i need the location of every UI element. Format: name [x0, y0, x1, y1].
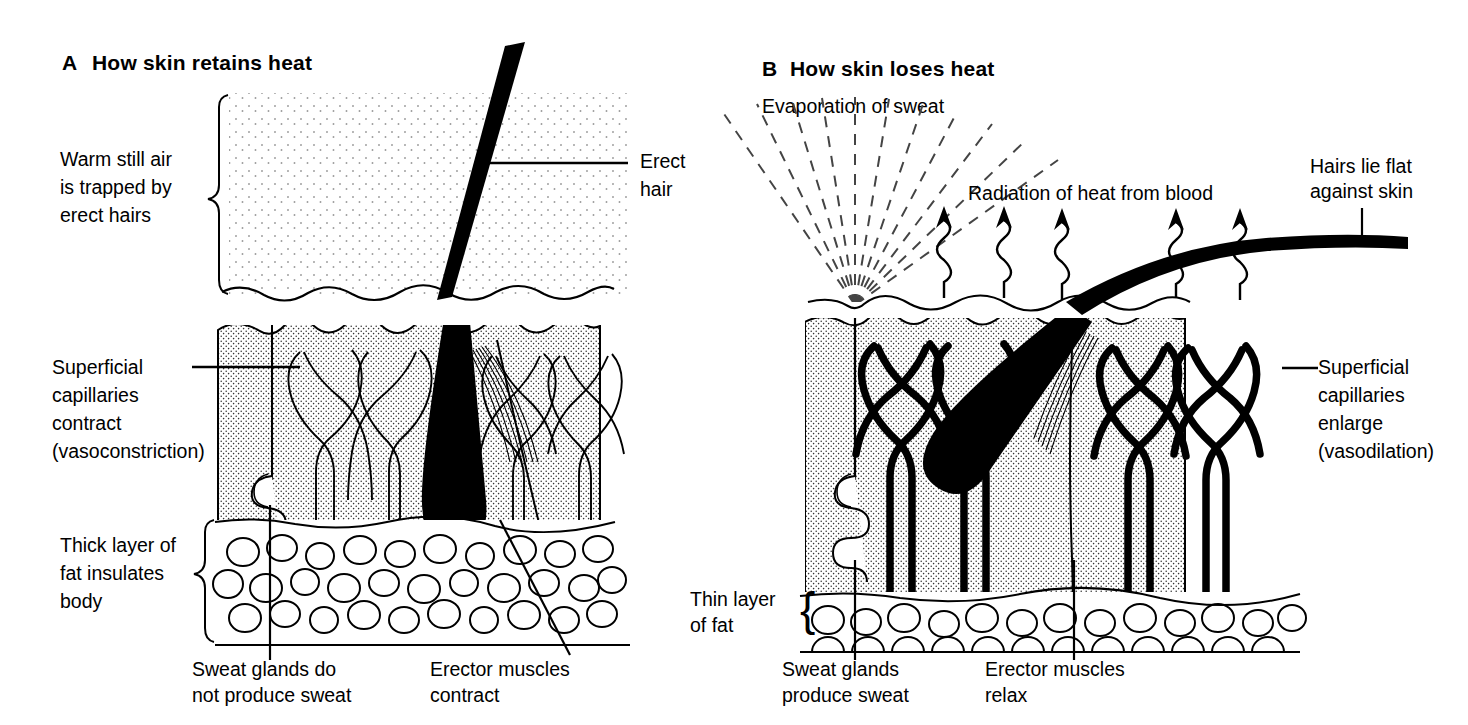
- air-label-line1: Warm still air: [60, 148, 172, 170]
- capillary-label-b-line3: enlarge: [1318, 412, 1383, 434]
- panel-a-letter: A: [62, 51, 77, 74]
- panel-a: A How skin retains heat Warm still air i…: [52, 42, 686, 706]
- warm-air-region: [229, 93, 630, 298]
- air-label-line2: is trapped by: [60, 176, 172, 198]
- panel-b: B How skin loses heat Evaporation of swe…: [690, 57, 1434, 706]
- fat-label-a-line1: Thick layer of: [60, 534, 177, 556]
- panel-b-letter: B: [762, 57, 777, 80]
- evaporation-label: Evaporation of sweat: [762, 95, 945, 117]
- capillary-label-b-line4: (vasodilation): [1318, 440, 1434, 462]
- capillary-label-b-line1: Superficial: [1318, 356, 1409, 378]
- figure-root: A How skin retains heat Warm still air i…: [0, 0, 1468, 725]
- erector-label-b-line1: Erector muscles: [985, 658, 1125, 680]
- skin-thermoregulation-diagram: A How skin retains heat Warm still air i…: [0, 0, 1468, 725]
- fat-label-a-line3: body: [60, 590, 103, 612]
- fat-label-b-line2: of fat: [690, 614, 734, 636]
- panel-a-title: How skin retains heat: [92, 51, 312, 74]
- fat-label-b-line1: Thin layer: [690, 588, 776, 610]
- sweat-label-b-line1: Sweat glands: [782, 658, 899, 680]
- hair-label-b-line2: against skin: [1310, 180, 1413, 202]
- hair-label-a-line1: Erect: [640, 150, 686, 172]
- fat-layer-b: [800, 588, 1306, 652]
- sweat-label-b-line2: produce sweat: [782, 684, 909, 706]
- capillary-label-a-line3: contract: [52, 412, 122, 434]
- sweat-label-a-line2: not produce sweat: [192, 684, 352, 706]
- fat-brace-b: {: [800, 583, 815, 635]
- hair-label-a-line2: hair: [640, 178, 673, 200]
- hair-label-b-line1: Hairs lie flat: [1310, 155, 1412, 177]
- capillary-label-a-line4: (vasoconstriction): [52, 440, 205, 462]
- erector-label-a-line2: contract: [430, 684, 500, 706]
- fat-label-a-line2: fat insulates: [60, 562, 164, 584]
- radiation-arrowheads: [936, 206, 1248, 230]
- fat-layer-a: [213, 517, 630, 645]
- air-brace: [208, 95, 228, 294]
- radiation-label: Radiation of heat from blood: [968, 182, 1213, 204]
- erector-label-b-line2: relax: [985, 684, 1028, 706]
- skin-surface-b: [808, 295, 1190, 310]
- capillary-label-b-line2: capillaries: [1318, 384, 1405, 406]
- capillary-label-a-line1: Superficial: [52, 356, 143, 378]
- fat-brace-a: [194, 520, 214, 642]
- air-label-line3: erect hairs: [60, 204, 151, 226]
- capillary-label-a-line2: capillaries: [52, 384, 139, 406]
- panel-b-title: How skin loses heat: [790, 57, 995, 80]
- erector-label-a-line1: Erector muscles: [430, 658, 570, 680]
- sweat-label-a-line1: Sweat glands do: [192, 658, 336, 680]
